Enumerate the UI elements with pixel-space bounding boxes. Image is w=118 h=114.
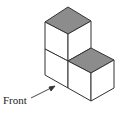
cube-diagram: Front [0,0,118,114]
front-label: Front [3,94,27,106]
arrow-head-icon [49,86,55,91]
front-arrow [31,86,55,98]
